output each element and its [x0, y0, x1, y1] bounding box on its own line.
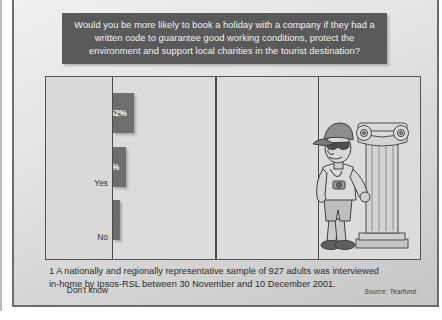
poster-panel: Would you be more likely to book a holid… — [12, 0, 439, 307]
question-text: Would you be more likely to book a holid… — [68, 19, 381, 59]
bar-value-yes: 52% — [112, 108, 127, 118]
category-label-no: No — [46, 232, 108, 242]
tourist-beside-ionic-column-illustration — [300, 107, 418, 259]
bar-row-yes: 52% — [113, 93, 137, 133]
category-label-yes: Yes — [46, 178, 108, 188]
bar-no: 33% — [113, 147, 126, 187]
plot-area: 52% 33% 15% — [112, 77, 420, 259]
bar-row-dont-know: 15% — [113, 200, 137, 240]
gridline-20 — [215, 77, 217, 259]
footnote: 1 A nationally and regionally representa… — [45, 262, 421, 302]
bar-dont-know: 15% — [113, 200, 120, 240]
bar-yes: 52% — [113, 93, 134, 133]
bar-row-no: 33% — [113, 147, 137, 187]
poster-page: Would you be more likely to book a holid… — [0, 0, 442, 320]
footnote-line-2: in-home by Ipsos-RSL between 30 November… — [49, 278, 417, 291]
footnote-line-1: 1 A nationally and regionally representa… — [49, 265, 417, 278]
bar-value-dont-know: 15% — [112, 215, 113, 225]
bar-chart: Yes No Don't know — [45, 76, 421, 260]
scan-edge — [0, 0, 2, 311]
question-banner: Would you be more likely to book a holid… — [62, 13, 387, 64]
bar-value-no: 33% — [112, 162, 119, 172]
source-attribution: Source: Tearfund — [364, 288, 416, 295]
